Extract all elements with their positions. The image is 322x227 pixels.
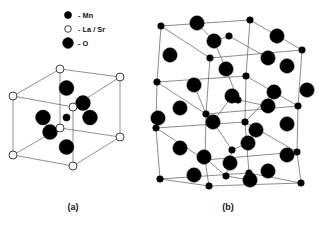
atom-oxygen-b-14	[206, 115, 220, 129]
atom-oxygen-b-7	[187, 78, 201, 92]
atom-oxygen-b-3	[261, 51, 275, 65]
atom-oxygen-b-9	[267, 85, 281, 99]
atom-oxygen-b-13	[151, 111, 165, 125]
atom-lanthanum-strontium-a-0	[9, 92, 17, 100]
cell-edge-b-12	[160, 173, 249, 179]
panel-label-a: (a)	[68, 202, 79, 212]
atom-oxygen-b-23	[261, 164, 275, 178]
atom-lanthanum-strontium-a-3	[56, 124, 64, 132]
atom-oxygen-b-2	[207, 34, 221, 48]
atom-lanthanum-strontium-a-6	[116, 73, 124, 81]
panel-b-supercell	[151, 16, 314, 190]
atom-oxygen-a-5	[43, 125, 58, 140]
atom-oxygen-b-15	[249, 123, 263, 137]
atom-oxygen-b-5	[280, 59, 294, 73]
atom-oxygen-b-1	[270, 29, 284, 43]
atom-lanthanum-strontium-a-2	[56, 65, 64, 73]
legend-label-o: - O	[78, 39, 89, 48]
atom-oxygen-b-0	[190, 16, 204, 30]
atom-oxygen-b-22	[187, 168, 201, 182]
atom-manganese-b-8	[153, 125, 160, 132]
atom-manganese-b-14	[298, 180, 305, 187]
cell-edge-b-26	[297, 152, 301, 183]
legend-marker-mn	[64, 11, 71, 18]
atom-manganese-b-19	[223, 173, 230, 180]
atom-oxygen-b-11	[173, 101, 187, 115]
atom-manganese-b-17	[235, 97, 242, 104]
atom-manganese-b-12	[157, 176, 164, 183]
cell-edge-b-0	[161, 20, 250, 26]
atom-manganese-b-7	[203, 111, 210, 118]
atom-manganese-a-0	[63, 114, 70, 121]
atom-manganese-b-10	[294, 149, 301, 156]
cell-edge-a-4	[13, 155, 73, 166]
atom-oxygen-b-16	[280, 117, 294, 131]
atom-type-legend: - Mn- La / Sr- O	[63, 11, 106, 49]
atom-manganese-b-11	[202, 157, 209, 164]
panel-label-b: (b)	[222, 202, 234, 212]
atom-oxygen-a-0	[59, 81, 74, 96]
atom-manganese-b-15	[206, 183, 213, 190]
cell-edge-a-7	[60, 128, 120, 137]
atom-oxygen-a-2	[36, 110, 51, 125]
atom-manganese-b-1	[247, 17, 254, 24]
atom-oxygen-a-4	[76, 96, 91, 111]
atom-manganese-b-5	[243, 73, 250, 80]
atom-oxygen-b-21	[223, 156, 237, 170]
atom-oxygen-b-19	[280, 148, 294, 162]
atom-oxygen-b-17	[241, 136, 255, 150]
atom-manganese-b-2	[299, 47, 306, 54]
cell-edge-b-22	[297, 106, 298, 152]
legend-marker-lasr	[65, 26, 72, 33]
atom-manganese-b-0	[158, 23, 165, 30]
panel-labels: (a)(b)	[68, 202, 234, 212]
cell-edge-a-1	[13, 69, 60, 96]
atom-oxygen-b-10	[300, 83, 314, 97]
cell-edge-b-4	[157, 76, 246, 82]
legend-label-lasr: - La / Sr	[78, 25, 105, 34]
cell-edge-b-19	[206, 58, 210, 114]
crystal-structure-figure: - Mn- La / Sr- O (a)(b)	[0, 0, 322, 227]
atom-oxygen-b-6	[219, 62, 233, 76]
cell-edge-b-21	[245, 76, 246, 122]
cell-edge-b-8	[156, 122, 245, 128]
atom-oxygen-b-12	[261, 99, 275, 113]
cell-edge-a-10	[73, 137, 120, 166]
atom-manganese-b-4	[154, 79, 161, 86]
legend-label-mn: - Mn	[78, 11, 94, 20]
legend-marker-o	[63, 38, 74, 49]
atom-manganese-b-13	[246, 170, 253, 177]
cell-edge-b-15	[160, 179, 209, 186]
atom-manganese-b-18	[229, 147, 236, 154]
panel-a-cubic-cell	[9, 65, 124, 170]
atom-oxygen-b-4	[163, 48, 177, 62]
atom-manganese-b-16	[226, 33, 233, 40]
figure-canvas: - Mn- La / Sr- O (a)(b)	[0, 0, 322, 227]
atom-manganese-b-6	[295, 103, 302, 110]
atom-lanthanum-strontium-a-4	[69, 103, 77, 111]
cell-edge-a-6	[60, 69, 120, 77]
cell-edge-b-18	[298, 50, 302, 106]
atom-lanthanum-strontium-a-1	[9, 151, 17, 159]
atom-oxygen-a-3	[83, 110, 98, 125]
cell-edge-b-16	[157, 26, 161, 82]
cell-edge-b-24	[156, 128, 160, 179]
atom-manganese-b-3	[207, 55, 214, 62]
atom-lanthanum-strontium-a-5	[69, 162, 77, 170]
atom-oxygen-b-18	[173, 141, 187, 155]
atom-manganese-b-9	[242, 119, 249, 126]
cell-edge-a-2	[13, 96, 73, 107]
cell-edge-b-17	[246, 20, 250, 76]
atom-oxygen-a-1	[59, 140, 74, 155]
atom-lanthanum-strontium-a-7	[116, 133, 124, 141]
